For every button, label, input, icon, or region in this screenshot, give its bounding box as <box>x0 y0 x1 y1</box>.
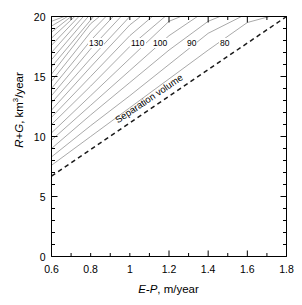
x-axis-label-symbol: E-P <box>138 283 157 295</box>
separation-volume-line <box>52 17 287 177</box>
x-tick-label: 1.4 <box>188 263 228 275</box>
y-axis-label-exponent: 3 <box>11 98 20 102</box>
contour-label: 80 <box>219 38 230 48</box>
y-tick-label: 15 <box>16 71 46 83</box>
x-tick-label: 1.2 <box>149 263 189 275</box>
y-tick-label: 10 <box>16 131 46 143</box>
contour-label: 130 <box>88 38 104 48</box>
contour-path <box>52 17 141 111</box>
contour-label: 90 <box>186 38 197 48</box>
x-tick-label: 1.6 <box>227 263 267 275</box>
y-tick-label: 20 <box>16 11 46 23</box>
contour-path <box>52 17 65 22</box>
separation-volume-path <box>52 17 287 177</box>
axis-frame <box>52 17 287 257</box>
contour-label: 110 <box>130 38 146 48</box>
axis-ticks <box>52 17 287 257</box>
contour-label: 100 <box>152 38 168 48</box>
contour-path <box>52 17 166 125</box>
x-tick-label: 0.8 <box>71 263 111 275</box>
y-tick-label: 0 <box>16 251 46 263</box>
contour-path <box>52 17 130 103</box>
x-axis-label-units: , m/year <box>157 283 199 295</box>
y-tick-label: 5 <box>16 191 46 203</box>
x-axis-label: E-P, m/year <box>51 283 286 295</box>
x-tick-label: 1.8 <box>267 263 302 275</box>
contour-figure: R+G, km3/year E-P, m/year 0.60.811.21.41… <box>0 0 301 305</box>
x-tick-label: 0.6 <box>32 263 72 275</box>
y-axis-label-units: , km <box>13 102 25 124</box>
x-tick-label: 1 <box>110 263 150 275</box>
